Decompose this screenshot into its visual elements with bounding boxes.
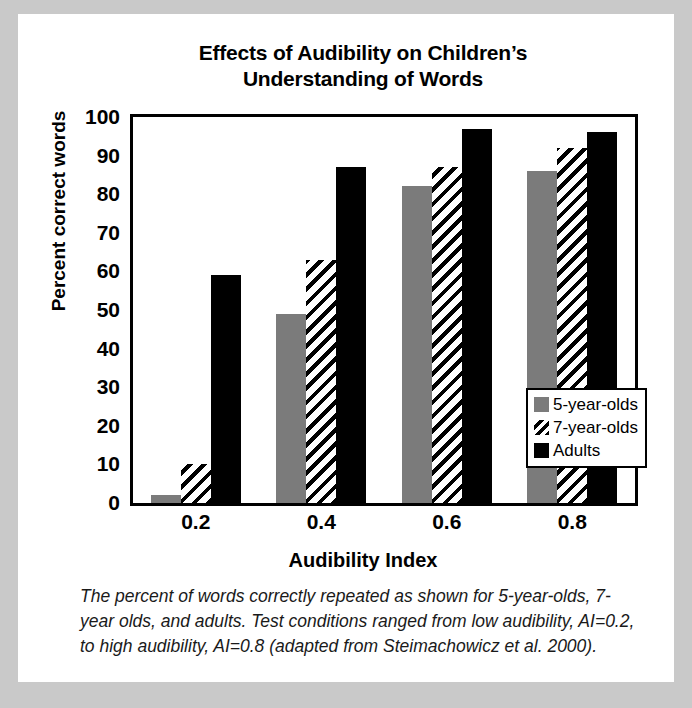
x-axis-tick-0.8: 0.8 (510, 510, 636, 534)
bar-7-year-olds-0.4 (306, 260, 336, 503)
y-axis-tick-90: 90 (97, 144, 120, 168)
legend-item-adults: Adults (534, 439, 638, 462)
bar-5-year-olds-0.2 (151, 495, 181, 503)
x-axis-label: Audibility Index (78, 549, 648, 572)
legend-item-5-year-olds: 5-year-olds (534, 393, 638, 416)
figure-sheet: Effects of Audibility on Children’s Unde… (18, 14, 674, 682)
y-axis-ticks: 1009080706050403020100 (64, 114, 126, 506)
y-axis-tick-50: 50 (97, 298, 120, 322)
x-axis-ticks: 0.20.40.60.8 (133, 510, 635, 534)
y-axis-tick-100: 100 (85, 105, 120, 129)
figure-caption: The percent of words correctly repeated … (80, 584, 640, 659)
y-axis-tick-20: 20 (97, 414, 120, 438)
bar-group-0.4 (259, 117, 385, 503)
y-axis-tick-80: 80 (97, 182, 120, 206)
bar-5-year-olds-0.4 (276, 314, 306, 503)
y-axis-tick-10: 10 (97, 452, 120, 476)
chart-title-line-2: Understanding of Words (78, 66, 648, 92)
x-axis-tick-0.2: 0.2 (133, 510, 259, 534)
bar-group-0.2 (133, 117, 259, 503)
bar-group-0.6 (384, 117, 510, 503)
x-axis-tick-0.6: 0.6 (384, 510, 510, 534)
legend-label: 7-year-olds (553, 418, 638, 438)
legend-label: 5-year-olds (553, 395, 638, 415)
y-axis-tick-70: 70 (97, 221, 120, 245)
bar-adults-0.6 (462, 129, 492, 503)
chart-title-line-1: Effects of Audibility on Children’s (78, 40, 648, 66)
legend-label: Adults (553, 441, 600, 461)
bar-5-year-olds-0.6 (402, 186, 432, 503)
bar-7-year-olds-0.2 (181, 464, 211, 503)
y-axis-tick-30: 30 (97, 375, 120, 399)
x-axis-tick-0.4: 0.4 (259, 510, 385, 534)
bar-7-year-olds-0.6 (432, 167, 462, 503)
legend-swatch-icon-2 (534, 443, 549, 458)
y-axis-tick-60: 60 (97, 259, 120, 283)
y-axis-tick-0: 0 (108, 491, 120, 515)
legend-swatch-icon-1 (534, 420, 549, 435)
legend-swatch-icon-0 (534, 397, 549, 412)
figure-page: Effects of Audibility on Children’s Unde… (0, 0, 692, 708)
chart-legend: 5-year-olds7-year-oldsAdults (526, 388, 647, 468)
bar-adults-0.4 (336, 167, 366, 503)
chart-title: Effects of Audibility on Children’s Unde… (78, 40, 648, 91)
bar-adults-0.2 (211, 275, 241, 503)
y-axis-tick-40: 40 (97, 337, 120, 361)
legend-item-7-year-olds: 7-year-olds (534, 416, 638, 439)
y-axis-label: Percent correct words (48, 96, 70, 326)
